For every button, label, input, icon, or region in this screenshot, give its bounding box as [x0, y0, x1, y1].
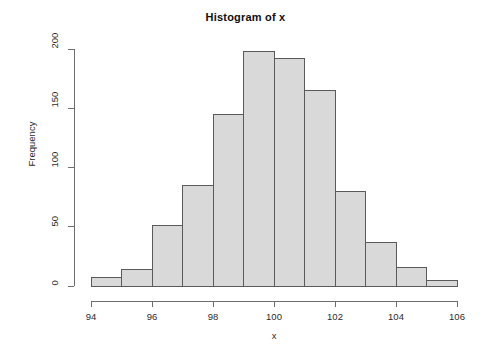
histogram-bar	[305, 90, 336, 286]
plot-canvas	[0, 0, 491, 352]
histogram-bar	[396, 267, 427, 286]
histogram-bar	[91, 278, 122, 286]
x-tick-label: 102	[327, 311, 343, 322]
histogram-bar	[122, 269, 153, 286]
histogram-bar	[152, 226, 183, 286]
x-tick-label: 104	[388, 311, 404, 322]
histogram-bar	[335, 191, 366, 286]
bars-layer	[91, 51, 457, 286]
x-tick-label: 94	[86, 311, 97, 322]
histogram-bar	[427, 280, 458, 286]
histogram-bar	[274, 58, 305, 286]
x-tick-label: 100	[266, 311, 282, 322]
histogram-bar	[213, 114, 244, 286]
histogram-bar	[183, 185, 214, 286]
x-axis-title: x	[272, 330, 277, 341]
histogram-bar	[244, 51, 275, 286]
x-tick-label: 96	[147, 311, 158, 322]
x-tick-label: 98	[208, 311, 219, 322]
histogram-plot: Histogram of x 0501001502009496981001021…	[0, 0, 491, 352]
x-tick-label: 106	[449, 311, 465, 322]
histogram-bar	[366, 242, 397, 286]
